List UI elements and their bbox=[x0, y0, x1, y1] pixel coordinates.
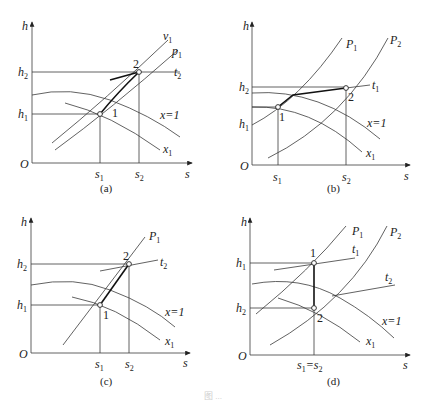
h1-label: h1 bbox=[17, 298, 27, 314]
point-1-label: 1 bbox=[279, 110, 285, 124]
origin-label: O bbox=[20, 157, 29, 171]
p1-label: P1 bbox=[351, 224, 363, 240]
origin-label: O bbox=[19, 347, 28, 361]
h1-label: h1 bbox=[236, 256, 246, 272]
x1-label: x1 bbox=[162, 142, 172, 158]
p2-isobar bbox=[270, 226, 387, 345]
h-axis-label: h bbox=[22, 19, 28, 33]
s1-label: s1 bbox=[273, 170, 282, 186]
p1-label: p1 bbox=[171, 44, 182, 60]
panel-c-caption: (c) bbox=[100, 375, 113, 388]
point-2-label: 2 bbox=[317, 311, 323, 325]
h1-label: h1 bbox=[239, 117, 249, 133]
panel-d-caption: (d) bbox=[327, 375, 340, 388]
s2-label: s2 bbox=[342, 170, 351, 186]
p1-isobar bbox=[256, 226, 346, 314]
x1-label: x1 bbox=[365, 334, 375, 350]
s2-label: s2 bbox=[135, 167, 144, 183]
state-point-1 bbox=[276, 105, 281, 110]
s-axis-label: s bbox=[183, 356, 188, 370]
p1-label: P1 bbox=[345, 37, 357, 53]
p1-label: P1 bbox=[148, 229, 160, 245]
h-axis-label: h bbox=[21, 215, 27, 229]
h2-label: h2 bbox=[18, 65, 28, 81]
panel-d: h s O h1 h2 s1=s2 1 2 P1 P2 t1 t2 x=1 x1… bbox=[236, 215, 410, 388]
state-point-1 bbox=[312, 261, 317, 266]
origin-label: O bbox=[240, 159, 249, 173]
t1-label: t1 bbox=[372, 78, 379, 94]
t1-isotherm bbox=[346, 85, 370, 88]
h-axis-label: h bbox=[241, 215, 247, 229]
h2-label: h2 bbox=[17, 257, 27, 273]
h1-label: h1 bbox=[18, 107, 28, 123]
p2-label: P2 bbox=[389, 33, 401, 49]
v1-label: v1 bbox=[163, 29, 172, 45]
p1-isobar bbox=[63, 237, 145, 345]
process-line-1-2 bbox=[278, 88, 346, 107]
panel-b: h s O h2 h1 s1 s2 1 2 P1 P2 t1 x=1 x1 (b… bbox=[239, 19, 410, 195]
p1-isobar bbox=[55, 50, 178, 150]
x1-saturation-curve bbox=[252, 281, 394, 338]
figure-caption: 图 ... bbox=[0, 389, 426, 401]
p1-isobar bbox=[252, 38, 342, 125]
point-2-label: 2 bbox=[348, 90, 354, 104]
p2-isobar bbox=[268, 38, 388, 158]
x1-saturation-curve bbox=[252, 93, 380, 139]
t1-label: t1 bbox=[352, 242, 359, 258]
point-2-label: 2 bbox=[123, 249, 129, 263]
x-eq-1-label: x=1 bbox=[164, 305, 184, 319]
x-eq-1-label: x=1 bbox=[159, 108, 179, 122]
panel-a: h s O h2 h1 s1 s2 1 2 v1 p1 t2 x=1 x1 bbox=[18, 19, 192, 195]
p2-label: P2 bbox=[389, 225, 401, 241]
point-1-label: 1 bbox=[310, 246, 316, 260]
t2-label: t2 bbox=[160, 255, 167, 271]
panel-b-caption: (b) bbox=[327, 182, 340, 195]
s-axis-label: s bbox=[404, 169, 409, 183]
x1-quality-curve bbox=[252, 107, 362, 152]
s-axis-label: s bbox=[403, 358, 408, 372]
h2-label: h2 bbox=[239, 80, 249, 96]
thermo-diagram-figure: h s O h2 h1 s1 s2 1 2 v1 p1 t2 x=1 x1 bbox=[0, 0, 426, 401]
state-point-2 bbox=[312, 306, 317, 311]
x1-label: x1 bbox=[164, 334, 174, 350]
point-2-label: 2 bbox=[133, 57, 139, 71]
s1-label: s1 bbox=[95, 167, 104, 183]
point-1-label: 1 bbox=[112, 106, 118, 120]
panel-a-caption: (a) bbox=[100, 182, 113, 195]
x-eq-1-label: x=1 bbox=[381, 314, 401, 328]
s-axis-label: s bbox=[185, 167, 190, 181]
x-eq-1-label: x=1 bbox=[366, 116, 386, 130]
point-1-label: 1 bbox=[103, 308, 109, 322]
process-line-1-2 bbox=[100, 72, 139, 114]
s1-label: s1 bbox=[95, 357, 104, 373]
h2-label: h2 bbox=[236, 301, 246, 317]
s2-label: s2 bbox=[125, 357, 134, 373]
state-point-1 bbox=[98, 303, 103, 308]
t2-label: t2 bbox=[385, 270, 392, 286]
origin-label: O bbox=[238, 349, 247, 363]
t2-label: t2 bbox=[174, 65, 181, 81]
h-axis-label: h bbox=[243, 19, 249, 33]
s1-eq-s2-label: s1=s2 bbox=[297, 358, 322, 374]
x1-quality-curve bbox=[72, 297, 160, 340]
state-point-1 bbox=[98, 112, 103, 117]
x1-label: x1 bbox=[365, 146, 375, 162]
panel-c: h s O h2 h1 s1 s2 1 2 P1 t2 x=1 x1 (c) bbox=[17, 215, 190, 388]
